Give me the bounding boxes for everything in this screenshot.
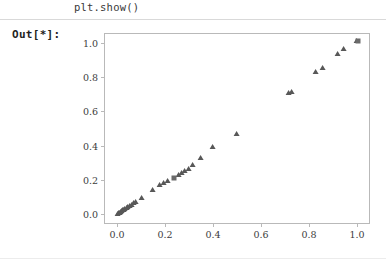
data-point xyxy=(320,65,326,70)
cell-divider-top xyxy=(0,19,386,20)
x-tick-label: 0.8 xyxy=(301,229,316,240)
data-point xyxy=(139,195,145,200)
x-tick-label: 0.0 xyxy=(109,229,124,240)
y-tick-label: 0.2 xyxy=(83,175,98,186)
data-point xyxy=(289,89,295,94)
data-point xyxy=(210,144,216,149)
matplotlib-figure: 0.00.20.40.60.81.00.00.20.40.60.81.0 xyxy=(78,24,380,254)
x-tick xyxy=(357,223,358,227)
data-point xyxy=(190,162,196,167)
x-tick xyxy=(165,223,166,227)
x-tick xyxy=(309,223,310,227)
y-tick xyxy=(101,77,105,78)
data-point xyxy=(356,38,361,43)
data-point xyxy=(198,155,204,160)
y-tick xyxy=(101,180,105,181)
y-tick xyxy=(101,111,105,112)
plot-area xyxy=(105,34,369,223)
y-tick xyxy=(101,43,105,44)
y-tick-label: 1.0 xyxy=(83,37,98,48)
y-tick-label: 0.6 xyxy=(83,106,98,117)
y-tick xyxy=(101,214,105,215)
y-tick xyxy=(101,146,105,147)
data-point xyxy=(186,166,192,171)
data-point xyxy=(150,187,156,192)
data-point xyxy=(334,51,340,56)
y-tick-label: 0.4 xyxy=(83,140,98,151)
output-prompt: Out[*]: xyxy=(12,28,60,41)
y-tick-label: 0.8 xyxy=(83,71,98,82)
cell-divider-bottom xyxy=(0,258,386,259)
x-tick-label: 0.4 xyxy=(205,229,220,240)
y-tick-label: 0.0 xyxy=(83,209,98,220)
data-point xyxy=(313,69,319,74)
data-point xyxy=(340,47,346,52)
x-tick xyxy=(117,223,118,227)
plot-axes: 0.00.20.40.60.81.00.00.20.40.60.81.0 xyxy=(104,33,370,224)
data-point xyxy=(164,178,170,183)
x-tick-label: 0.2 xyxy=(157,229,172,240)
data-point xyxy=(172,175,177,180)
data-point xyxy=(234,131,240,136)
x-tick-label: 1.0 xyxy=(349,229,364,240)
code-line: plt.show() xyxy=(74,1,139,13)
x-tick xyxy=(213,223,214,227)
x-tick-label: 0.6 xyxy=(253,229,268,240)
x-tick xyxy=(261,223,262,227)
data-point xyxy=(133,199,139,204)
